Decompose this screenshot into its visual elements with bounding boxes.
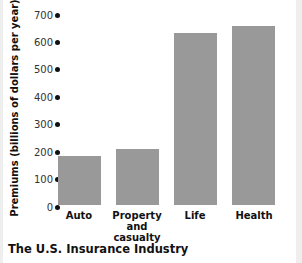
bar-property-and-casualty [116,149,159,205]
y-tick: 100 [24,174,60,186]
y-tick-label: 300 [34,119,53,130]
y-axis-label: Premiums (billions of dollars per year) [3,0,25,215]
y-tick: 700 [24,9,60,21]
y-axis-label-text: Premiums (billions of dollars per year) [9,0,20,216]
tick-dot-icon [55,67,60,72]
y-tick: 300 [24,119,60,131]
tick-dot-icon [55,95,60,100]
y-tick-label: 100 [34,174,53,185]
y-tick-label: 200 [34,147,53,158]
tick-dot-icon [55,40,60,45]
y-tick-label: 700 [34,10,53,21]
chart-title: The U.S. Insurance Industry [8,242,188,256]
bar-health [232,26,275,205]
tick-dot-icon [55,205,60,210]
tick-dot-icon [55,122,60,127]
y-tick: 400 [24,91,60,103]
tick-dot-icon [55,13,60,18]
y-tick: 200 [24,146,60,158]
y-tick: 600 [24,36,60,48]
bar-life [174,33,217,205]
x-label-health: Health [219,210,289,221]
right-border [296,0,302,263]
y-tick-label: 400 [34,92,53,103]
y-tick-label: 600 [34,37,53,48]
x-label-property-line2: and casualty [102,221,172,243]
tick-dot-icon [55,150,60,155]
y-tick: 500 [24,64,60,76]
bar-auto [58,156,101,205]
y-tick-label: 500 [34,64,53,75]
